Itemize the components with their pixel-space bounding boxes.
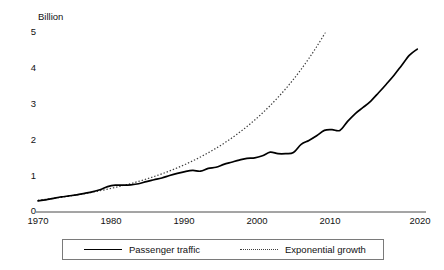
legend-swatch-solid-line-icon (84, 245, 122, 254)
legend-item-passenger-traffic: Passenger traffic (84, 240, 200, 259)
series-line-passenger-traffic (38, 49, 417, 201)
plot-area (0, 0, 444, 270)
chart-legend: Passenger traffic Exponential growth (62, 239, 384, 260)
legend-label-exponential-growth: Exponential growth (285, 245, 366, 255)
chart-container: Billion 5 4 3 2 1 0 1970 1980 1990 2000 … (0, 0, 444, 270)
legend-swatch-dotted-line-icon (240, 245, 278, 254)
series-line-exponential-growth (38, 33, 325, 200)
legend-label-passenger-traffic: Passenger traffic (129, 245, 200, 255)
legend-item-exponential-growth: Exponential growth (240, 240, 366, 259)
